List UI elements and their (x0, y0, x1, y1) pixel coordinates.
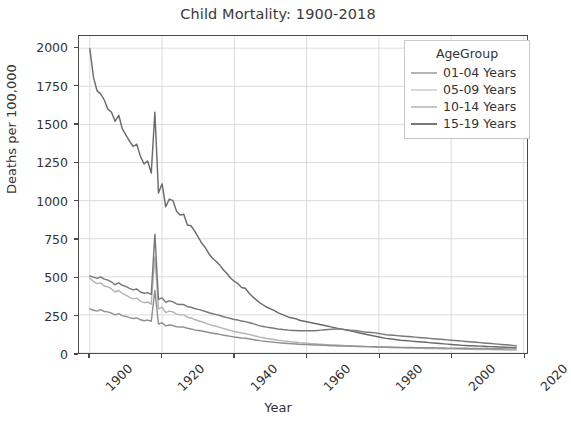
y-tick-label: 250 (10, 308, 68, 323)
x-tick-label: 1900 (102, 361, 135, 394)
y-tick-label: 1000 (10, 193, 68, 208)
x-tick-label: 1980 (393, 361, 426, 394)
x-axis-label: Year (0, 400, 556, 415)
legend-item[interactable]: 01-04 Years (411, 64, 523, 81)
y-tick-label: 2000 (10, 40, 68, 55)
x-tick-label: 1940 (247, 361, 280, 394)
legend-item-label: 10-14 Years (443, 99, 516, 114)
x-tick-mark (451, 354, 452, 358)
x-tick-mark (233, 354, 234, 358)
y-tick-label: 0 (10, 347, 68, 362)
legend-item[interactable]: 10-14 Years (411, 98, 523, 115)
y-axis-label: Deaths per 100,000 (4, 64, 19, 194)
x-tick-label: 2000 (465, 361, 498, 394)
x-tick-label: 2020 (538, 361, 571, 394)
legend-item[interactable]: 05-09 Years (411, 81, 523, 98)
legend-item-label: 01-04 Years (443, 65, 516, 80)
legend-color-swatch (411, 68, 437, 78)
y-tick-label: 500 (10, 270, 68, 285)
x-tick-label: 1920 (175, 361, 208, 394)
legend-item-label: 15-19 Years (443, 116, 516, 131)
chart-title: Child Mortality: 1900-2018 (0, 6, 556, 22)
legend-color-swatch (411, 85, 437, 95)
legend-item-label: 05-09 Years (443, 82, 516, 97)
x-tick-mark (524, 354, 525, 358)
legend-title: AgeGroup (411, 46, 523, 61)
y-tick-label: 750 (10, 231, 68, 246)
legend-color-swatch (411, 119, 437, 129)
x-tick-mark (88, 354, 89, 358)
x-tick-label: 1960 (320, 361, 353, 394)
x-tick-mark (306, 354, 307, 358)
legend-rows: 01-04 Years05-09 Years10-14 Years15-19 Y… (411, 64, 523, 132)
x-tick-mark (379, 354, 380, 358)
legend-color-swatch (411, 102, 437, 112)
legend: AgeGroup 01-04 Years05-09 Years10-14 Yea… (404, 40, 530, 139)
x-tick-mark (161, 354, 162, 358)
legend-item[interactable]: 15-19 Years (411, 115, 523, 132)
